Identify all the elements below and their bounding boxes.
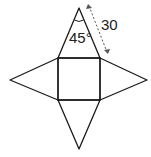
- arrowhead-bottom-icon: [104, 49, 110, 54]
- slant-length-label: 30: [101, 16, 118, 33]
- angle-label: 45°: [69, 29, 92, 46]
- right-triangle: [100, 58, 147, 100]
- left-triangle: [10, 58, 58, 100]
- base-square: [58, 58, 100, 100]
- pyramid-net-diagram: 45° 30: [0, 0, 151, 157]
- angle-arc: [75, 20, 84, 22]
- arrowhead-top-icon: [86, 4, 92, 9]
- bottom-triangle: [58, 100, 100, 149]
